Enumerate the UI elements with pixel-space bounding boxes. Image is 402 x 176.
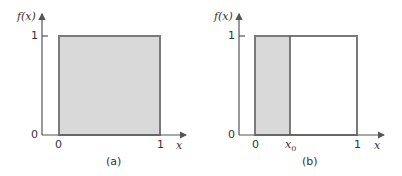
x-tick-label-0-b: 0 <box>252 138 259 151</box>
panel-a-plot <box>42 14 186 135</box>
x-axis-label-b: x <box>374 139 380 152</box>
x-tick-label-0-a: 0 <box>55 138 62 151</box>
y-axis-label-b: f(x) <box>214 10 233 23</box>
y-axis-label-a: f(x) <box>17 10 36 23</box>
x-tick-label-1-a: 1 <box>157 138 164 151</box>
figure: f(x) 1 0 0 1 x (a) f(x) 1 0 0 x0 1 x (b) <box>0 0 402 176</box>
shaded-region-b <box>255 36 290 135</box>
x0-subscript: 0 <box>291 144 296 153</box>
x-axis-label-a: x <box>176 139 182 152</box>
caption-b: (b) <box>302 155 318 168</box>
y-tick-label-0-b: 0 <box>228 128 235 141</box>
caption-a: (a) <box>106 155 121 168</box>
panel-b-plot <box>239 14 384 135</box>
y-tick-label-1-b: 1 <box>228 29 235 42</box>
x-tick-label-1-b: 1 <box>354 138 361 151</box>
x-tick-label-x0-b: x0 <box>285 138 296 153</box>
y-tick-label-0-a: 0 <box>31 128 38 141</box>
shaded-region-a <box>59 36 160 135</box>
y-tick-label-1-a: 1 <box>31 29 38 42</box>
